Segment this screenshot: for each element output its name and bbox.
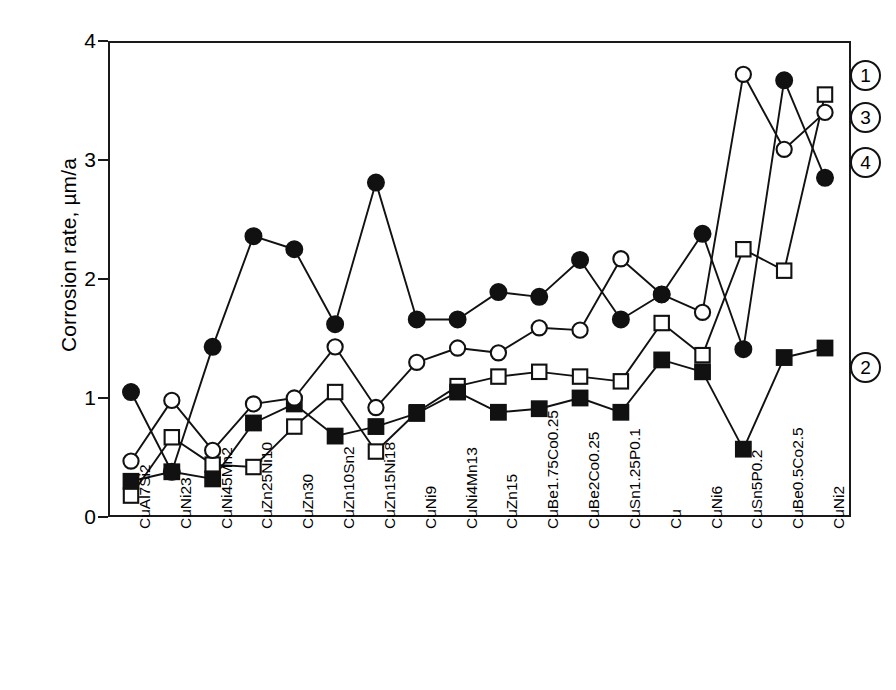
x-tick-label-8: CuNi4Mn13 xyxy=(464,447,480,529)
x-tick-label-7: CuNi9 xyxy=(423,486,439,529)
y-tick-label-3: 3 xyxy=(62,149,96,170)
y-tick-label-4: 4 xyxy=(62,30,96,51)
x-tick-label-2: CuNi45Mn2 xyxy=(219,447,235,529)
plot-area xyxy=(108,41,851,517)
y-tick-label-0: 0 xyxy=(62,506,96,527)
y-axis-title: Corrosion rate, µm/a xyxy=(57,90,81,420)
x-tick-label-14: CuNi6 xyxy=(709,486,725,529)
series-callout-2: 2 xyxy=(850,352,881,383)
x-tick-label-0: CuAl7Si2 xyxy=(137,464,153,529)
x-tick-label-1: CuNi23 xyxy=(178,477,194,529)
chart-figure: Corrosion rate, µm/a 4 3 2 1 0 CuAl7Si2C… xyxy=(0,0,896,690)
x-tick-label-16: CuBe0.5Co2.5 xyxy=(790,427,806,529)
series-callout-3: 3 xyxy=(850,102,881,133)
series-callout-4: 4 xyxy=(850,147,881,178)
x-tick-label-9: CuZn15 xyxy=(504,474,520,529)
x-tick-label-6: CuZn15Ni18 xyxy=(382,442,398,529)
series-callout-1: 1 xyxy=(850,60,881,91)
x-tick-label-12: CuSn1.25P0.1 xyxy=(627,428,643,529)
x-tick-label-4: CuZn30 xyxy=(300,474,316,529)
x-tick-label-17: CuNi2 xyxy=(831,486,847,529)
x-tick-label-3: CuZn25Ni10 xyxy=(259,442,275,529)
y-tick-label-1: 1 xyxy=(62,387,96,408)
x-tick-label-13: Cu xyxy=(668,509,684,529)
x-tick-label-15: CuSn5P0.2 xyxy=(749,450,765,529)
x-tick-label-5: CuZn10Sn2 xyxy=(341,446,357,529)
x-tick-label-11: CuBe2Co0.25 xyxy=(586,432,602,529)
y-tick-label-2: 2 xyxy=(62,268,96,289)
x-tick-label-10: CuBe1.75Co0.25 xyxy=(545,410,561,529)
